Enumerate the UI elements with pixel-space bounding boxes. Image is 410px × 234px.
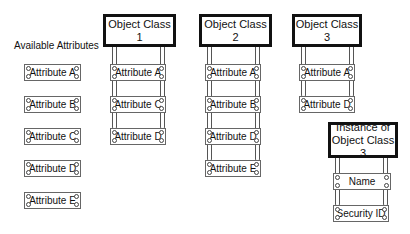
object-class-3[interactable]: Object Class 3 [292, 14, 362, 47]
hole-icon [26, 130, 31, 135]
available-attribute-a[interactable]: Attribute A [24, 64, 81, 81]
hole-icon [74, 98, 79, 103]
instance-object-class-3[interactable]: Instance of Object Class 3 [328, 122, 398, 158]
class2-attribute-a[interactable]: Attribute A [205, 64, 261, 81]
hole-icon [26, 162, 31, 167]
attribute-label: Name [349, 176, 376, 187]
hole-icon [74, 106, 79, 111]
hole-icon [348, 66, 353, 71]
object-class-2[interactable]: Object Class 2 [199, 14, 272, 47]
hole-icon [159, 98, 164, 103]
hole-icon [207, 138, 212, 143]
hole-icon [207, 170, 212, 175]
hole-icon [254, 130, 259, 135]
hole-icon [159, 74, 164, 79]
hole-icon [382, 207, 387, 212]
available-attribute-c[interactable]: Attribute C [24, 128, 81, 145]
class-title: Object Class 1 [106, 18, 173, 44]
hole-icon [26, 202, 31, 207]
attribute-label: Attribute D [29, 163, 76, 174]
attribute-label: Security ID [337, 208, 386, 219]
hole-icon [207, 74, 212, 79]
attribute-label: Attribute E [210, 163, 257, 174]
attribute-label: Attribute C [114, 99, 161, 110]
instance-attribute-name[interactable]: Name [333, 173, 391, 190]
hole-icon [159, 130, 164, 135]
chain-link-left [112, 45, 117, 129]
hole-icon [26, 98, 31, 103]
hole-icon [335, 215, 340, 220]
chain-link-right [160, 45, 165, 129]
hole-icon [348, 74, 353, 79]
class2-attribute-b[interactable]: Attribute B [205, 96, 261, 113]
attribute-label: Attribute B [210, 99, 257, 110]
attribute-label: Attribute D [209, 131, 256, 142]
hole-icon [26, 66, 31, 71]
hole-icon [74, 130, 79, 135]
hole-icon [382, 215, 387, 220]
hole-icon [384, 183, 389, 188]
hole-icon [112, 98, 117, 103]
hole-icon [26, 194, 31, 199]
hole-icon [254, 98, 259, 103]
hole-icon [301, 66, 306, 71]
attribute-label: Attribute B [29, 99, 76, 110]
hole-icon [74, 138, 79, 143]
hole-icon [74, 194, 79, 199]
attribute-label: Attribute A [304, 67, 350, 78]
hole-icon [112, 74, 117, 79]
hole-icon [26, 74, 31, 79]
attribute-label: Attribute A [210, 67, 256, 78]
hole-icon [26, 138, 31, 143]
hole-icon [207, 106, 212, 111]
hole-icon [207, 162, 212, 167]
attribute-label: Attribute D [114, 131, 161, 142]
hole-icon [254, 66, 259, 71]
class3-attribute-a[interactable]: Attribute A [299, 64, 355, 81]
class-title: Object Class 3 [295, 18, 359, 44]
class2-attribute-e[interactable]: Attribute E [205, 160, 261, 177]
attribute-label: Attribute A [115, 67, 161, 78]
hole-icon [254, 74, 259, 79]
hole-icon [254, 106, 259, 111]
hole-icon [301, 106, 306, 111]
hole-icon [254, 162, 259, 167]
attribute-label: Attribute A [29, 67, 75, 78]
hole-icon [74, 170, 79, 175]
attribute-label: Attribute C [29, 131, 76, 142]
hole-icon [74, 162, 79, 167]
available-attribute-b[interactable]: Attribute B [24, 96, 81, 113]
hole-icon [26, 106, 31, 111]
hole-icon [112, 66, 117, 71]
hole-icon [26, 170, 31, 175]
hole-icon [254, 138, 259, 143]
hole-icon [348, 106, 353, 111]
attribute-label: Attribute E [29, 195, 76, 206]
available-attribute-d[interactable]: Attribute D [24, 160, 81, 177]
class-title: Object Class 2 [202, 18, 269, 44]
hole-icon [207, 98, 212, 103]
hole-icon [74, 202, 79, 207]
hole-icon [207, 66, 212, 71]
class1-attribute-c[interactable]: Attribute C [110, 96, 166, 113]
hole-icon [112, 138, 117, 143]
hole-icon [207, 130, 212, 135]
instance-title-line2: Object Class 3 [331, 134, 395, 160]
hole-icon [254, 170, 259, 175]
hole-icon [112, 130, 117, 135]
attribute-label: Attribute D [303, 99, 350, 110]
class3-attribute-d[interactable]: Attribute D [299, 96, 355, 113]
class2-attribute-d[interactable]: Attribute D [205, 128, 261, 145]
instance-attribute-security-id[interactable]: Security ID [333, 205, 389, 222]
class1-attribute-a[interactable]: Attribute A [110, 64, 166, 81]
hole-icon [159, 66, 164, 71]
object-class-1[interactable]: Object Class 1 [103, 14, 176, 47]
hole-icon [335, 175, 340, 180]
hole-icon [301, 98, 306, 103]
available-attribute-e[interactable]: Attribute E [24, 192, 81, 209]
hole-icon [384, 175, 389, 180]
hole-icon [159, 106, 164, 111]
hole-icon [335, 183, 340, 188]
hole-icon [112, 106, 117, 111]
class1-attribute-d[interactable]: Attribute D [110, 128, 166, 145]
